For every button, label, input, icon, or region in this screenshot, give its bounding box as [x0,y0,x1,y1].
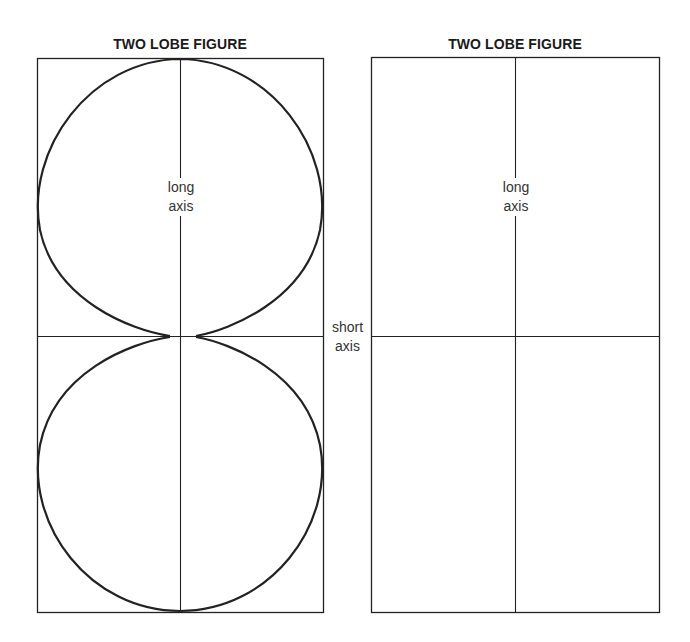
label-line: axis [325,337,370,356]
label-line: long [161,178,201,197]
label-line: short [325,318,370,337]
short-axis-label: short axis [325,318,370,356]
left-figure-title: TWO LOBE FIGURE [80,36,280,52]
label-line: long [496,178,536,197]
right-long-axis-label: long axis [496,178,536,216]
label-line: axis [161,197,201,216]
left-figure [37,58,324,613]
right-figure [371,57,660,613]
left-long-axis-label: long axis [161,178,201,216]
right-figure-title: TWO LOBE FIGURE [415,36,615,52]
label-line: axis [496,197,536,216]
